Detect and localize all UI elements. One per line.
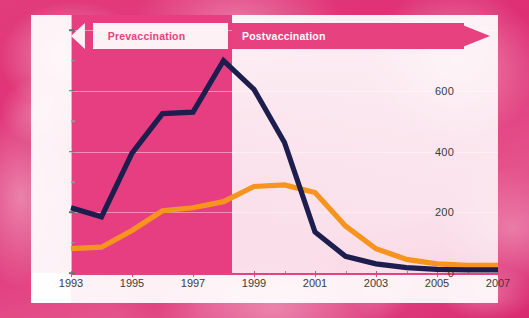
postvaccination-label: Postvaccination bbox=[242, 23, 326, 49]
prevaccination-banner: Prevaccination bbox=[71, 23, 228, 49]
right-arrow-icon bbox=[460, 21, 490, 51]
navy-series-line bbox=[71, 61, 498, 270]
prevaccination-label: Prevaccination bbox=[71, 23, 222, 49]
era-banners: Prevaccination Postvaccination bbox=[71, 23, 498, 49]
plot-area bbox=[31, 15, 498, 303]
postvaccination-banner: Postvaccination bbox=[232, 23, 490, 49]
orange-series-line bbox=[71, 185, 498, 265]
chart-panel: 0200400600800 19931995199719992001200320… bbox=[31, 15, 498, 303]
